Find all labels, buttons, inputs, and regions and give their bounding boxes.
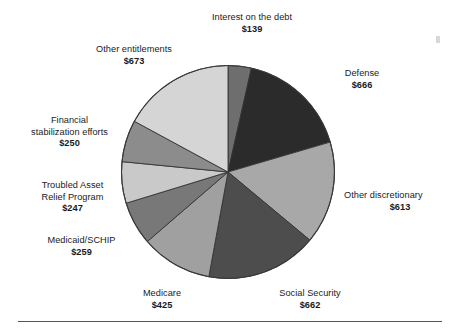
slice-label-value: $666 [310, 80, 414, 92]
slice-label-category-line1: Troubled Asset [18, 180, 127, 192]
slice-label-value: $425 [112, 300, 212, 312]
slice-label-value: $250 [12, 138, 127, 150]
slice-label-value: $662 [254, 300, 366, 312]
slice-label-defense: Defense $666 [310, 68, 414, 91]
slice-label-value: $139 [182, 24, 322, 36]
slice-label-other-discretionary: Other discretionary $613 [344, 190, 456, 213]
slice-label-category-line2: Relief Program [18, 192, 127, 204]
slice-label-category: Other entitlements [72, 44, 196, 56]
slice-label-other-entitlements: Other entitlements $673 [72, 44, 196, 67]
slice-label-category-line1: Financial [12, 115, 127, 127]
slice-label-category: Interest on the debt [182, 12, 322, 24]
slice-label-value: $673 [72, 56, 196, 68]
slice-label-category: Social Security [254, 288, 366, 300]
pie-chart-figure: Interest on the debt $139 Defense $666 O… [0, 0, 457, 333]
slice-label-financial-stabilization-efforts: Financial stabilization efforts $250 [12, 115, 127, 150]
slice-label-medicaid-schip: Medicaid/SCHIP $259 [20, 235, 143, 258]
slice-label-medicare: Medicare $425 [112, 288, 212, 311]
pie-slices-group [121, 66, 334, 279]
slice-label-category: Defense [310, 68, 414, 80]
pie-chart-canvas [0, 0, 457, 333]
slice-label-category: Medicare [112, 288, 212, 300]
scan-artifact-mark [436, 36, 440, 43]
slice-label-interest-on-the-debt: Interest on the debt $139 [182, 12, 322, 35]
slice-label-troubled-asset-relief-program: Troubled Asset Relief Program $247 [18, 180, 127, 215]
slice-label-category: Other discretionary [344, 190, 456, 202]
slice-label-social-security: Social Security $662 [254, 288, 366, 311]
footer-divider-rule [18, 321, 442, 322]
slice-label-value: $613 [344, 202, 456, 214]
slice-label-category: Medicaid/SCHIP [20, 235, 143, 247]
slice-label-value: $247 [18, 203, 127, 215]
slice-label-value: $259 [20, 247, 143, 259]
slice-label-category-line2: stabilization efforts [12, 127, 127, 139]
